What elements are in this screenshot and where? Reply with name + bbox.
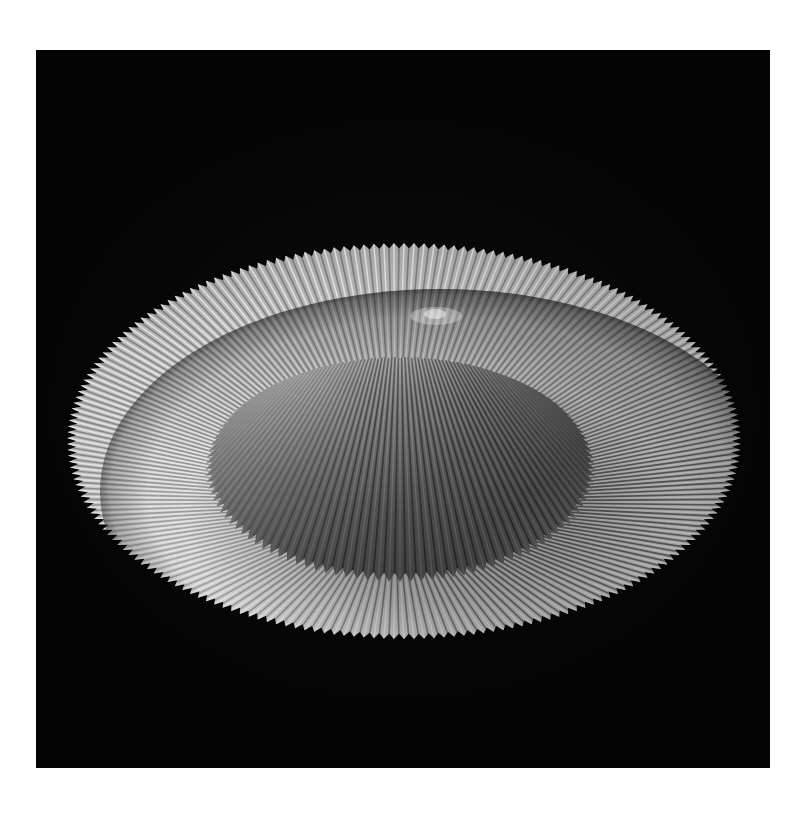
- form-vector: [36, 50, 770, 768]
- photograph-plate: Monochrome studio photograph of a pleate…: [36, 50, 770, 768]
- pleated-conical-form: [36, 50, 770, 768]
- photo-page: Monochrome studio photograph of a pleate…: [0, 0, 804, 818]
- apex-highlight: [410, 307, 462, 325]
